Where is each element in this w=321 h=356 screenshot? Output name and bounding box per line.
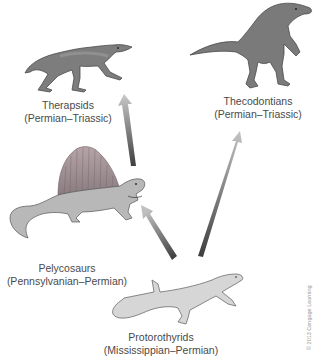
dimetrodon-illustration-icon <box>10 147 145 238</box>
pelycosaurs-name: Pelycosaurs <box>0 262 134 275</box>
pelycosaurs-period: (Pennsylvanian–Permian) <box>0 275 134 288</box>
protorothyrids-period: (Mississippian–Permian) <box>94 344 228 356</box>
thecodontians-name: Thecodontians <box>198 95 318 108</box>
thecodontians-label: Thecodontians (Permian–Triassic) <box>198 95 318 120</box>
therapsid-illustration-icon <box>25 45 132 92</box>
copyright-credit: © 2013 Cengage Learning <box>306 285 312 350</box>
thecodontians-period: (Permian–Triassic) <box>198 108 318 121</box>
thecodont-illustration-icon <box>190 3 312 88</box>
therapsids-period: (Permian–Triassic) <box>10 112 126 125</box>
therapsids-name: Therapsids <box>10 99 126 112</box>
arrow-protorothyrids-to-thecodontians <box>198 131 242 257</box>
protorothyrids-label: Protorothyrids (Mississippian–Permian) <box>94 331 228 356</box>
arrow-protorothyrids-to-pelycosaurs <box>141 205 177 260</box>
pelycosaurs-label: Pelycosaurs (Pennsylvanian–Permian) <box>0 262 134 287</box>
diagram-canvas <box>0 0 321 356</box>
therapsids-label: Therapsids (Permian–Triassic) <box>10 99 126 124</box>
protorothyrids-name: Protorothyrids <box>94 331 228 344</box>
